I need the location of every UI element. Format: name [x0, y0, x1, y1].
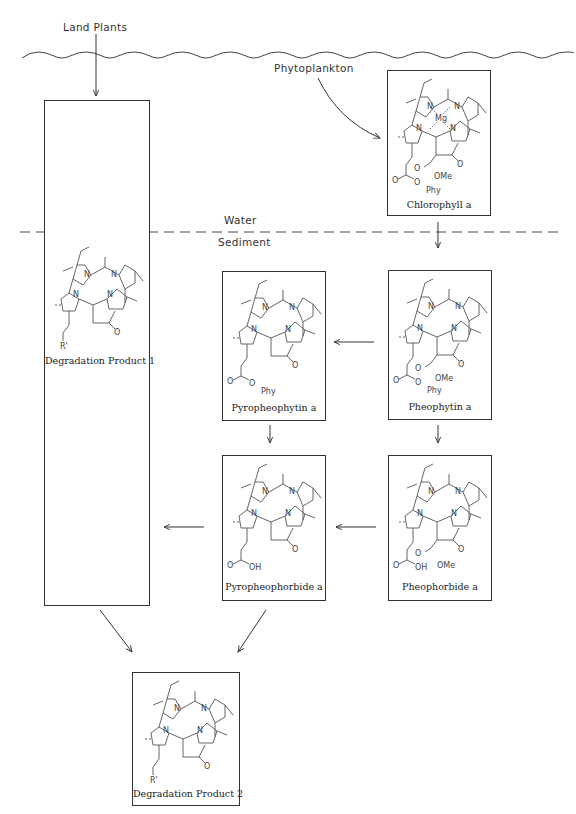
compound-box-chlorophyll-a: N N Mg N N O O OMe O O Phy Chlorophyll a — [387, 70, 491, 216]
compound-label: Pyropheophorbide a — [223, 581, 325, 592]
atom-n: N — [417, 324, 423, 333]
atom-n: N — [251, 325, 257, 334]
compound-label: Degradation Product 1 — [45, 355, 149, 366]
atom-n: N — [174, 704, 180, 713]
atom-o: O — [415, 549, 421, 558]
phytoplankton-label: Phytoplankton — [274, 62, 354, 74]
atom-n: N — [289, 487, 295, 496]
compound-box-degradation-product-2: N N N N O R' Degradation Product 2 — [132, 672, 240, 806]
atom-n: N — [289, 303, 295, 312]
molecule-pheophytin-a: N N N N O O OMe O O Phy — [393, 275, 489, 399]
atom-o: O — [249, 379, 255, 388]
group-oh: OH — [249, 563, 261, 572]
atom-o: O — [415, 364, 421, 373]
atom-n: N — [262, 487, 268, 496]
compound-label: Chlorophyll a — [388, 199, 490, 210]
atom-o: O — [392, 176, 398, 185]
water-zone-label: Water — [224, 214, 257, 226]
compound-box-pheophytin-a: N N N N O O OMe O O Phy Pheophytin a — [388, 270, 492, 420]
atom-n: N — [251, 509, 257, 518]
atom-o: O — [204, 762, 210, 771]
atom-n: N — [197, 726, 203, 735]
side-chain-r: R' — [60, 342, 68, 351]
atom-n: N — [428, 302, 434, 311]
atom-n: N — [107, 290, 113, 299]
atom-n: N — [416, 124, 422, 133]
group-phy: Phy — [261, 387, 276, 396]
compound-box-pyropheophytin-a: N N N N O O O Phy Pyropheophytin a — [222, 271, 326, 421]
atom-n: N — [455, 487, 461, 496]
molecule-degradation-product-1: N N N N O R' — [51, 243, 145, 353]
compound-box-degradation-product-1: N N N N O R' Degradation Product 1 — [44, 100, 150, 606]
atom-o: O — [457, 160, 463, 169]
molecule-degradation-product-2: N N N N O R' — [139, 677, 235, 787]
atom-n: N — [73, 290, 79, 299]
atom-n: N — [451, 324, 457, 333]
molecule-pheophorbide-a: N N N N O O OMe O OH — [393, 460, 489, 576]
atom-mg: Mg — [435, 114, 447, 123]
group-ome: OMe — [435, 374, 453, 383]
group-phy: Phy — [426, 186, 441, 195]
atom-n: N — [111, 270, 117, 279]
water-surface-line — [22, 52, 574, 58]
atom-o: O — [292, 545, 298, 554]
atom-o: O — [458, 360, 464, 369]
compound-label: Pyropheophytin a — [223, 402, 325, 413]
arrow-pyropheophorbide-to-product-2 — [238, 610, 266, 652]
atom-o: O — [414, 178, 420, 187]
compound-label: Pheophorbide a — [389, 581, 491, 592]
group-ome: OMe — [437, 561, 455, 570]
molecule-chlorophyll-a: N N Mg N N O O OMe O O Phy — [392, 75, 488, 197]
atom-o: O — [227, 561, 233, 570]
sediment-zone-label: Sediment — [218, 236, 271, 248]
land-plants-label: Land Plants — [63, 21, 127, 33]
atom-n: N — [262, 303, 268, 312]
side-chain-r: R' — [150, 776, 158, 785]
atom-n: N — [163, 726, 169, 735]
atom-n: N — [285, 325, 291, 334]
atom-n: N — [451, 509, 457, 518]
atom-n: N — [455, 302, 461, 311]
atom-n: N — [427, 102, 433, 111]
group-oh: OH — [415, 563, 427, 572]
atom-n: N — [417, 509, 423, 518]
atom-n: N — [450, 124, 456, 133]
atom-n: N — [428, 487, 434, 496]
atom-o: O — [458, 545, 464, 554]
atom-o: O — [415, 378, 421, 387]
atom-o: O — [414, 164, 420, 173]
atom-o: O — [292, 361, 298, 370]
atom-n: N — [201, 704, 207, 713]
compound-label: Degradation Product 2 — [133, 788, 239, 799]
group-ome: OMe — [434, 172, 452, 181]
atom-o: O — [114, 328, 120, 337]
molecule-pyropheophytin-a: N N N N O O O Phy — [227, 276, 323, 400]
arrow-product-1-to-product-2 — [100, 610, 132, 652]
group-phy: Phy — [427, 386, 442, 395]
atom-n: N — [84, 270, 90, 279]
atom-n: N — [285, 509, 291, 518]
molecule-pyropheophorbide-a: N N N N O O OH — [227, 460, 323, 576]
atom-o: O — [393, 561, 399, 570]
compound-box-pheophorbide-a: N N N N O O OMe O OH Pheophorbide a — [388, 455, 492, 601]
compound-label: Pheophytin a — [389, 401, 491, 412]
atom-n: N — [454, 102, 460, 111]
atom-o: O — [227, 377, 233, 386]
arrow-phytoplankton-to-chlorophyll — [318, 78, 380, 138]
compound-box-pyropheophorbide-a: N N N N O O OH Pyropheophorbide a — [222, 455, 326, 601]
atom-o: O — [393, 376, 399, 385]
